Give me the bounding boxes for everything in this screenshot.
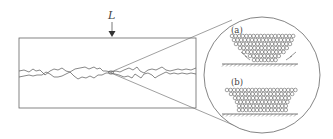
panel-a-label: (a) xyxy=(231,25,243,35)
load-label: L xyxy=(107,9,115,22)
load-arrow-icon xyxy=(109,22,116,37)
panel-b-label: (b) xyxy=(231,77,243,87)
crack-magnification-diagram: L (a) (b) xyxy=(0,0,333,139)
crack-surfaces xyxy=(19,67,196,79)
